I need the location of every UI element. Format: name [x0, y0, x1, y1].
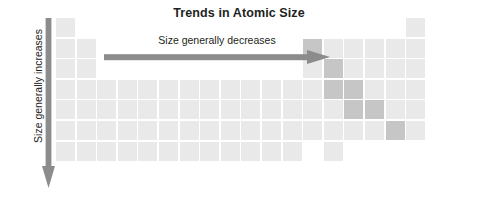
element-cell	[138, 80, 157, 99]
element-cell	[406, 18, 425, 37]
element-cell	[303, 80, 322, 99]
element-cell	[200, 80, 219, 99]
element-cell	[221, 100, 240, 119]
vertical-trend-label: Size generally increases	[32, 6, 44, 166]
element-cell	[283, 142, 302, 161]
element-cell	[77, 100, 96, 119]
element-cell	[77, 142, 96, 161]
element-cell	[324, 142, 343, 161]
element-cell	[262, 80, 281, 99]
element-cell	[386, 80, 405, 99]
element-cell	[97, 142, 116, 161]
element-cell	[200, 100, 219, 119]
element-cell	[406, 39, 425, 58]
element-cell	[283, 80, 302, 99]
element-cell	[406, 80, 425, 99]
element-cell	[344, 80, 363, 99]
element-cell	[365, 59, 384, 78]
element-cell	[344, 100, 363, 119]
element-cell	[344, 121, 363, 140]
element-cell	[180, 80, 199, 99]
element-cell	[138, 142, 157, 161]
element-cell	[324, 80, 343, 99]
element-cell	[118, 142, 137, 161]
periodic-table-grid	[0, 0, 478, 201]
element-cell	[262, 121, 281, 140]
element-cell	[97, 121, 116, 140]
element-cell	[283, 121, 302, 140]
element-cell	[344, 59, 363, 78]
element-cell	[386, 121, 405, 140]
element-cell	[159, 80, 178, 99]
element-cell	[303, 100, 322, 119]
element-cell	[365, 100, 384, 119]
element-cell	[77, 59, 96, 78]
element-cell	[386, 100, 405, 119]
element-cell	[118, 80, 137, 99]
element-cell	[221, 80, 240, 99]
element-cell	[159, 121, 178, 140]
element-cell	[159, 142, 178, 161]
element-cell	[200, 121, 219, 140]
element-cell	[241, 142, 260, 161]
element-cell	[386, 39, 405, 58]
element-cell	[406, 121, 425, 140]
element-cell	[406, 59, 425, 78]
element-cell	[386, 59, 405, 78]
element-cell	[159, 100, 178, 119]
element-cell	[97, 80, 116, 99]
element-cell	[77, 121, 96, 140]
element-cell	[118, 121, 137, 140]
element-cell	[406, 100, 425, 119]
horizontal-trend-group: Size generally decreases	[104, 34, 330, 66]
element-cell	[241, 121, 260, 140]
vertical-trend-group: Size generally increases	[14, 18, 60, 188]
element-cell	[283, 100, 302, 119]
page-title: Trends in Atomic Size	[0, 6, 478, 20]
element-cell	[200, 142, 219, 161]
horizontal-trend-label: Size generally decreases	[104, 34, 330, 46]
element-cell	[365, 39, 384, 58]
element-cell	[324, 121, 343, 140]
element-cell	[365, 80, 384, 99]
element-cell	[365, 121, 384, 140]
element-cell	[180, 121, 199, 140]
element-cell	[97, 100, 116, 119]
element-cell	[180, 142, 199, 161]
element-cell	[138, 121, 157, 140]
element-cell	[262, 142, 281, 161]
element-cell	[118, 100, 137, 119]
element-cell	[303, 121, 322, 140]
right-arrow-icon	[104, 50, 330, 64]
element-cell	[138, 100, 157, 119]
element-cell	[241, 100, 260, 119]
element-cell	[262, 100, 281, 119]
element-cell	[324, 100, 343, 119]
element-cell	[77, 39, 96, 58]
element-cell	[221, 142, 240, 161]
element-cell	[241, 80, 260, 99]
element-cell	[180, 100, 199, 119]
element-cell	[221, 121, 240, 140]
atomic-size-trends-figure: Trends in Atomic Size Size generally inc…	[0, 0, 478, 201]
element-cell	[344, 39, 363, 58]
element-cell	[77, 80, 96, 99]
